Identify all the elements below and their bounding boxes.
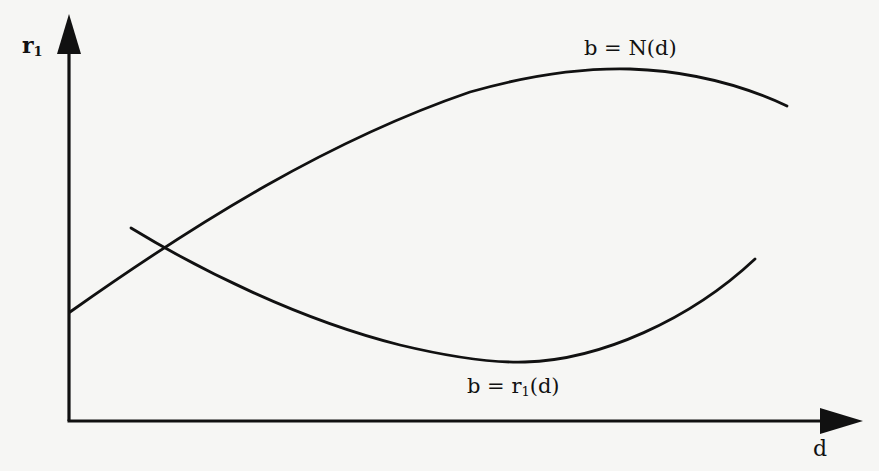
curve-r1-of-d [131,228,755,362]
y-axis-label-subscript: 1 [34,44,43,59]
curve-n-of-d [70,69,787,312]
y-axis-label: r1 [22,34,43,58]
plot-area [0,0,879,471]
x-axis-label: d [813,438,827,460]
y-axis-arrow-icon [57,14,81,54]
diagram-canvas: r1 d b = N(d) b = r1(d) [0,0,879,471]
x-axis-arrow-icon [820,408,863,434]
curve-r1-label: b = r1(d) [467,376,560,398]
curve-r1-label-prefix: b = r [467,374,521,398]
y-axis-label-base: r [22,32,34,58]
curve-n-label: b = N(d) [584,38,677,59]
curve-r1-label-subscript: 1 [521,384,529,399]
curve-r1-label-suffix: (d) [530,374,560,398]
